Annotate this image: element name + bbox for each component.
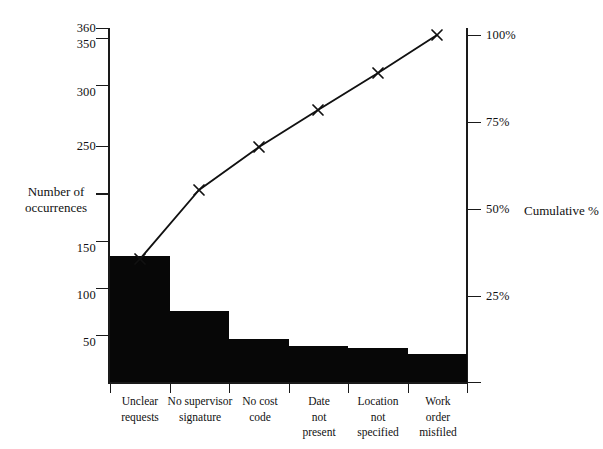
x-label-line: Work: [409, 394, 467, 410]
x-label-work-order-misfiled: Work order misfiled: [409, 394, 467, 441]
y2-tick-label-100: 100%: [486, 29, 516, 42]
x-label-line: signature: [163, 410, 237, 426]
bar-location-not-specified: [348, 348, 408, 382]
x-label-no-cost-code: No cost code: [232, 394, 288, 425]
pareto-chart: 360 350 300 250 150 100 50 Number of occ…: [0, 0, 603, 449]
x-label-line: present: [291, 425, 347, 441]
x-label-line: misfiled: [409, 425, 467, 441]
y-tick-label-250: 250: [6, 140, 96, 153]
bar-date-not-present: [289, 346, 348, 382]
bar-no-supervisor-signature: [170, 311, 229, 382]
x-label-line: No supervisor: [163, 394, 237, 410]
x-axis-line: [108, 382, 468, 384]
x-label-line: Unclear: [110, 394, 170, 410]
y-axis-right-title: Cumulative %: [524, 203, 599, 219]
y2-tick-label-50: 50%: [486, 203, 510, 216]
bar-work-order-misfiled: [408, 354, 467, 382]
x-tick-4: [348, 384, 349, 393]
x-tick-0: [110, 384, 111, 393]
x-label-line: Date: [291, 394, 347, 410]
bar-unclear-requests: [110, 256, 170, 382]
x-tick-6: [467, 384, 468, 393]
y-axis-left-title: Number of occurrences: [14, 184, 98, 217]
x-label-line: not: [348, 410, 408, 426]
x-tick-1: [170, 384, 171, 393]
plot-area: [110, 28, 467, 382]
y-axis-left-title-line1: Number of: [14, 184, 98, 200]
x-tick-3: [289, 384, 290, 393]
x-tick-2: [229, 384, 230, 393]
x-label-location-not-specified: Location not specified: [348, 394, 408, 441]
y-tick-label-360: 360: [6, 22, 96, 35]
y2-tick-50: [468, 209, 481, 210]
y-tick-50: [96, 335, 109, 336]
y-tick-300: [96, 85, 109, 86]
x-label-line: order: [409, 410, 467, 426]
y-tick-label-100: 100: [6, 289, 96, 302]
x-label-unclear-requests: Unclear requests: [110, 394, 170, 425]
y-tick-360: [96, 28, 109, 29]
y-tick-label-50: 50: [6, 336, 96, 349]
y-tick-label-350: 350: [6, 38, 96, 51]
y2-tick-100: [468, 35, 481, 36]
y-tick-150: [96, 241, 109, 242]
bar-no-cost-code: [229, 339, 289, 382]
y-tick-100: [96, 288, 109, 289]
y-tick-350: [96, 38, 109, 39]
y2-tick-label-75: 75%: [486, 116, 510, 129]
y2-tick-25: [468, 296, 481, 297]
y-tick-250-mark: [96, 146, 109, 147]
x-label-line: requests: [110, 410, 170, 426]
x-label-line: code: [232, 410, 288, 426]
x-label-line: specified: [348, 425, 408, 441]
y2-tick-label-25: 25%: [486, 290, 510, 303]
y2-tick-0: [468, 382, 481, 383]
y2-tick-75: [468, 122, 481, 123]
y-tick-label-300: 300: [6, 86, 96, 99]
y-axis-left-title-line2: occurrences: [14, 200, 98, 216]
x-label-date-not-present: Date not present: [291, 394, 347, 441]
x-label-no-supervisor-signature: No supervisor signature: [163, 394, 237, 425]
x-tick-5: [408, 384, 409, 393]
x-label-line: Location: [348, 394, 408, 410]
x-label-line: No cost: [232, 394, 288, 410]
x-label-line: not: [291, 410, 347, 426]
y-tick-label-150: 150: [6, 242, 96, 255]
